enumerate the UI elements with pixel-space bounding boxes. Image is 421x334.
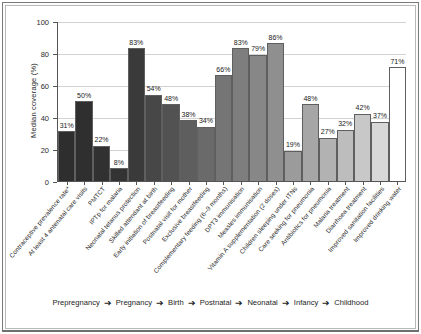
y-tick-mark [53,86,57,87]
bar-value-label: 86% [269,34,283,42]
bar [354,114,371,181]
y-tick-mark [53,118,57,119]
timeline-stage-infancy: Infancy [294,298,318,307]
bar [302,104,319,181]
bar-slot: 79% [249,22,266,181]
bar-value-label: 34% [199,117,213,125]
timeline-legend: Prepregnancy➔Pregnancy➔Birth➔Postnatal➔N… [6,298,415,307]
timeline-stage-pregnancy: Pregnancy [116,298,152,307]
bar-value-label: 83% [129,39,143,47]
plot-area-wrapper: Median coverage (%) 020406080100 31%50%2… [0,0,421,334]
bar-value-label: 31% [60,122,74,130]
bar [319,138,336,181]
bar [337,130,354,181]
bar-slot: 19% [284,22,301,181]
bar [162,104,179,181]
bar-value-label: 42% [356,104,370,112]
bar-value-label: 54% [147,85,161,93]
bar-value-label: 27% [321,128,335,136]
bar-slot: 22% [93,22,110,181]
y-tick-mark [53,22,57,23]
bottom-rule [2,330,419,332]
bar-slot: 50% [75,22,92,181]
y-tick-mark [53,54,57,55]
bar-slot: 34% [197,22,214,181]
x-axis-category-labels: Contraceptive prevalence rate*At least 4… [57,183,406,291]
bar-value-label: 50% [77,92,91,100]
bar-slot: 8% [110,22,127,181]
bar-value-label: 48% [164,95,178,103]
bar-slot: 27% [319,22,336,181]
timeline-stage-prepregnancy: Prepregnancy [53,298,100,307]
bar-value-label: 37% [373,112,387,120]
bar-value-label: 22% [95,136,109,144]
y-tick-mark [53,182,57,183]
bar [371,122,388,181]
bar-slot: 86% [267,22,284,181]
bar [197,127,214,181]
arrow-right-icon: ➔ [281,299,291,307]
bar-slot: 83% [232,22,249,181]
y-axis-tick-labels: 020406080100 [27,22,53,182]
plot-area: 31%50%22%8%83%54%48%38%34%66%83%79%86%19… [57,22,406,182]
y-tick-mark [53,150,57,151]
bar [128,48,145,181]
bar [267,43,284,181]
bar [389,67,406,181]
bar-value-label: 38% [182,111,196,119]
bar-slot: 31% [58,22,75,181]
y-tick-label-20: 20 [41,146,49,155]
bar-slot: 48% [162,22,179,181]
timeline-stage-childhood: Childhood [334,298,368,307]
bar-slot: 38% [180,22,197,181]
bar-value-label: 66% [216,66,230,74]
bar [215,75,232,181]
bar [145,95,162,181]
bar [58,131,75,181]
bar-value-label: 19% [286,141,300,149]
bar-slot: 83% [128,22,145,181]
bar-value-label: 32% [338,120,352,128]
bar [110,168,127,181]
bar-slot: 42% [354,22,371,181]
arrow-right-icon: ➔ [321,299,331,307]
y-tick-label-0: 0 [45,178,49,187]
bar-slot: 48% [302,22,319,181]
bar-value-label: 83% [234,39,248,47]
chart-figure: Median coverage (%) 020406080100 31%50%2… [0,0,421,334]
timeline-stage-neonatal: Neonatal [247,298,277,307]
bar-value-label: 48% [303,95,317,103]
bar-slot: 37% [371,22,388,181]
bar [249,55,266,181]
timeline-stage-birth: Birth [168,298,184,307]
bar-value-label: 71% [390,58,404,66]
y-tick-label-100: 100 [36,18,49,27]
bar-value-label: 79% [251,45,265,53]
bar [284,151,301,181]
bar-slot: 32% [337,22,354,181]
y-tick-label-60: 60 [41,82,49,91]
bar [232,48,249,181]
arrow-right-icon: ➔ [155,299,165,307]
bar [180,120,197,181]
y-tick-label-40: 40 [41,114,49,123]
bar-slot: 66% [215,22,232,181]
y-tick-label-80: 80 [41,50,49,59]
bar-slot: 71% [389,22,406,181]
bar-value-label: 8% [114,159,124,167]
bar-slot: 54% [145,22,162,181]
arrow-right-icon: ➔ [187,299,197,307]
bar-series: 31%50%22%8%83%54%48%38%34%66%83%79%86%19… [58,22,406,181]
bar [75,101,92,181]
arrow-right-icon: ➔ [234,299,244,307]
timeline-stage-postnatal: Postnatal [200,298,232,307]
arrow-right-icon: ➔ [103,299,113,307]
bar [93,146,110,181]
